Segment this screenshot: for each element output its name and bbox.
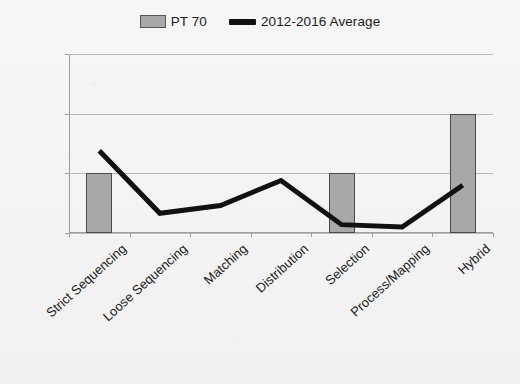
legend-label-pt70: PT 70 (171, 14, 207, 29)
x-tick-mark (130, 233, 131, 237)
chart-legend: PT 70 2012-2016 Average (0, 14, 520, 29)
legend-item-average[interactable]: 2012-2016 Average (229, 14, 380, 29)
average-line-series (69, 54, 493, 233)
x-axis-label: Strict Sequencing (44, 241, 130, 320)
x-tick-mark (69, 233, 70, 237)
x-tick-mark (493, 233, 494, 237)
x-tick-mark (432, 233, 433, 237)
average-line (99, 151, 462, 227)
x-tick-mark (372, 233, 373, 237)
x-axis-label: Hybrid (455, 241, 493, 277)
x-tick-mark (251, 233, 252, 237)
x-axis-label: Loose Sequencing (100, 241, 190, 324)
x-tick-mark (190, 233, 191, 237)
legend-item-pt70[interactable]: PT 70 (140, 14, 207, 29)
x-axis-label: Selection (322, 241, 372, 288)
combo-chart: PT 70 2012-2016 Average 0123 Strict Sequ… (0, 0, 520, 384)
bar-swatch-icon (140, 15, 166, 28)
x-axis-label: Process/Mapping (347, 241, 432, 319)
gridline (69, 233, 493, 234)
x-tick-mark (311, 233, 312, 237)
legend-label-average: 2012-2016 Average (261, 14, 380, 29)
x-axis-label: Distribution (253, 241, 311, 296)
line-swatch-icon (229, 19, 256, 25)
x-axis-label: Matching (201, 241, 250, 287)
plot-area: 0123 (69, 54, 493, 233)
